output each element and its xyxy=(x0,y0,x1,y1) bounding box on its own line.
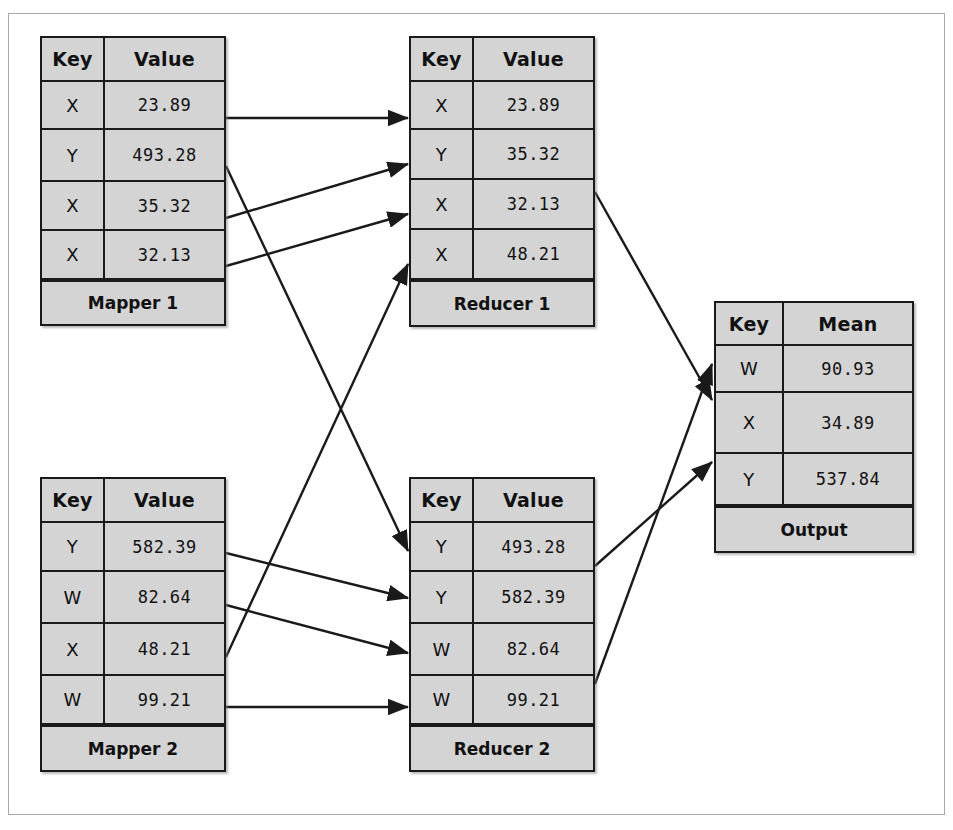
cell-key: W xyxy=(42,572,105,622)
cell-value: 99.21 xyxy=(105,676,224,723)
cell-value: 493.28 xyxy=(474,523,593,570)
cell-key: Y xyxy=(411,523,474,570)
cell-key: X xyxy=(716,393,784,452)
table-row: X 48.21 xyxy=(42,624,224,676)
cell-key: X xyxy=(42,82,105,128)
table-row: Y 493.28 xyxy=(411,523,593,572)
table-row: Y 582.39 xyxy=(411,572,593,624)
mapreduce-diagram: Key Value X 23.89 Y 493.28 X 35.32 X 32.… xyxy=(0,0,953,830)
table-row: Y 35.32 xyxy=(411,130,593,180)
cell-key: X xyxy=(411,230,474,278)
table-header-row: Key Value xyxy=(42,479,224,523)
table-row: X 48.21 xyxy=(411,230,593,280)
column-header-value: Value xyxy=(105,479,224,521)
column-header-key: Key xyxy=(411,38,474,80)
table-row: X 35.32 xyxy=(42,182,224,231)
table-header-row: Key Mean xyxy=(716,303,912,346)
cell-value: 32.13 xyxy=(474,180,593,228)
table-row: X 23.89 xyxy=(411,82,593,130)
cell-value: 82.64 xyxy=(474,624,593,674)
table-footer-label: Reducer 2 xyxy=(411,725,593,770)
cell-key: X xyxy=(411,82,474,128)
column-header-key: Key xyxy=(42,38,105,80)
column-header-key: Key xyxy=(42,479,105,521)
table-row: W 82.64 xyxy=(42,572,224,624)
table-row: X 23.89 xyxy=(42,82,224,130)
table-footer-label: Output xyxy=(716,506,912,551)
table-row: Y 537.84 xyxy=(716,454,912,506)
table-header-row: Key Value xyxy=(411,479,593,523)
column-header-value: Value xyxy=(105,38,224,80)
cell-value: 90.93 xyxy=(784,346,912,391)
cell-value: 582.39 xyxy=(474,572,593,622)
cell-value: 35.32 xyxy=(474,130,593,178)
table-footer-label: Reducer 1 xyxy=(411,280,593,325)
cell-value: 32.13 xyxy=(105,231,224,278)
cell-key: Y xyxy=(42,130,105,180)
cell-value: 23.89 xyxy=(474,82,593,128)
column-header-key: Key xyxy=(411,479,474,521)
cell-key: X xyxy=(42,231,105,278)
table-footer-label: Mapper 1 xyxy=(42,280,224,324)
column-header-value: Value xyxy=(474,479,593,521)
cell-value: 35.32 xyxy=(105,182,224,229)
cell-value: 537.84 xyxy=(784,454,912,504)
table-reducer-2: Key Value Y 493.28 Y 582.39 W 82.64 W 99… xyxy=(409,477,595,772)
table-row: X 34.89 xyxy=(716,393,912,454)
cell-key: Y xyxy=(42,523,105,570)
column-header-mean: Mean xyxy=(784,303,912,344)
column-header-value: Value xyxy=(474,38,593,80)
column-header-key: Key xyxy=(716,303,784,344)
table-row: W 82.64 xyxy=(411,624,593,676)
table-row: X 32.13 xyxy=(42,231,224,280)
cell-key: W xyxy=(42,676,105,723)
cell-value: 48.21 xyxy=(474,230,593,278)
cell-key: W xyxy=(411,676,474,723)
cell-key: Y xyxy=(411,572,474,622)
cell-value: 82.64 xyxy=(105,572,224,622)
cell-value: 23.89 xyxy=(105,82,224,128)
cell-key: Y xyxy=(411,130,474,178)
cell-key: W xyxy=(411,624,474,674)
table-row: W 99.21 xyxy=(411,676,593,725)
table-output: Key Mean W 90.93 X 34.89 Y 537.84 Output xyxy=(714,301,914,553)
cell-key: X xyxy=(411,180,474,228)
table-row: W 90.93 xyxy=(716,346,912,393)
cell-key: Y xyxy=(716,454,784,504)
cell-key: X xyxy=(42,182,105,229)
table-reducer-1: Key Value X 23.89 Y 35.32 X 32.13 X 48.2… xyxy=(409,36,595,327)
table-mapper-1: Key Value X 23.89 Y 493.28 X 35.32 X 32.… xyxy=(40,36,226,326)
cell-key: W xyxy=(716,346,784,391)
table-row: Y 582.39 xyxy=(42,523,224,572)
table-mapper-2: Key Value Y 582.39 W 82.64 X 48.21 W 99.… xyxy=(40,477,226,772)
cell-value: 582.39 xyxy=(105,523,224,570)
table-row: X 32.13 xyxy=(411,180,593,230)
table-row: Y 493.28 xyxy=(42,130,224,182)
table-header-row: Key Value xyxy=(42,38,224,82)
cell-value: 493.28 xyxy=(105,130,224,180)
cell-value: 34.89 xyxy=(784,393,912,452)
table-row: W 99.21 xyxy=(42,676,224,725)
cell-value: 48.21 xyxy=(105,624,224,674)
table-header-row: Key Value xyxy=(411,38,593,82)
table-footer-label: Mapper 2 xyxy=(42,725,224,770)
cell-value: 99.21 xyxy=(474,676,593,723)
cell-key: X xyxy=(42,624,105,674)
